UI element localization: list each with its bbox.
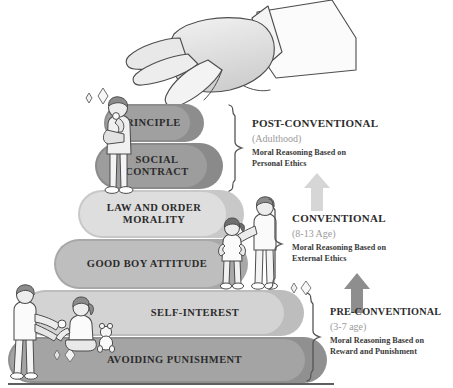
level-post-conventional: POST-CONVENTIONAL (Adulthood) Moral Reas… <box>252 117 452 169</box>
teddy-bear-illustration <box>97 323 114 352</box>
arrow-to-post-conventional-icon <box>303 172 331 212</box>
kohlberg-moral-development-diagram: PRINCIPLE SOCIAL CONTRACT LAW AND ORDER … <box>0 0 453 388</box>
level-pre-conventional: PRE-CONVENTIONAL (3-7 age) Moral Reasoni… <box>330 306 452 357</box>
level-title-conventional: CONVENTIONAL <box>292 212 453 224</box>
level-conventional: CONVENTIONAL (8-13 Age) Moral Reasoning … <box>292 212 453 264</box>
ground-line <box>8 383 334 385</box>
level-description-pre-conventional: Moral Reasoning Based on Reward and Puni… <box>330 336 452 357</box>
brace-pre-conventional <box>304 292 322 382</box>
brace-post-conventional <box>226 104 244 192</box>
level-age-post-conventional: (Adulthood) <box>252 133 452 144</box>
level-description-post-conventional: Moral Reasoning Based on Personal Ethics <box>252 148 452 169</box>
level-title-pre-conventional: PRE-CONVENTIONAL <box>330 306 452 317</box>
brace-conventional <box>266 198 284 290</box>
level-age-pre-conventional: (3-7 age) <box>330 321 452 332</box>
adult-thinking-figure <box>96 96 144 196</box>
stage-label-law-and-order-morality: LAW AND ORDER MORALITY <box>80 190 228 238</box>
level-description-conventional: Moral Reasoning Based on External Ethics <box>292 243 453 264</box>
parent-and-toddler-figures <box>2 288 124 384</box>
stage-label-self-interest: SELF-INTEREST <box>112 290 278 336</box>
level-age-conventional: (8-13 Age) <box>292 228 453 239</box>
reaching-hand-illustration <box>126 0 356 110</box>
stage-label-good-boy-attitude: GOOD BOY ATTITUDE <box>60 239 234 289</box>
level-title-post-conventional: POST-CONVENTIONAL <box>252 117 452 129</box>
